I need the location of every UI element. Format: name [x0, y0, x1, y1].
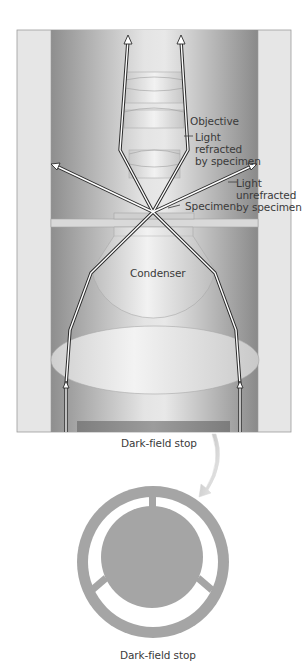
- dark-field-stop-bar: [77, 421, 230, 432]
- dark-field-diagram: [0, 0, 306, 670]
- lower-lens: [51, 326, 259, 394]
- label-light-refracted: Light refracted by specimen: [195, 131, 261, 167]
- label-specimen: Specimen: [185, 200, 236, 212]
- objective-lens: [124, 72, 184, 178]
- label-dark-field-stop-bottom: Dark-field stop: [120, 649, 196, 661]
- curved-arrow-icon: [199, 434, 220, 497]
- label-dark-field-stop-top: Dark-field stop: [121, 437, 197, 449]
- label-objective: Objective: [190, 115, 239, 127]
- label-condenser: Condenser: [130, 267, 186, 279]
- label-light-unrefracted: Light unrefracted by specimen: [236, 177, 302, 213]
- dark-field-stop-disk: [77, 486, 229, 638]
